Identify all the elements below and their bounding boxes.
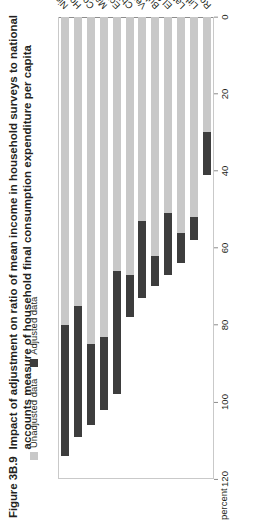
axis-tick-label: 0	[219, 14, 231, 19]
bar-row	[190, 17, 198, 478]
legend-label-unadjusted: Unadjusted data	[28, 379, 39, 448]
bar-segment-adjusted	[164, 213, 172, 275]
axis-tick-mark	[214, 402, 218, 403]
axis-tick-mark	[214, 171, 218, 172]
bar-segment-adjusted	[151, 256, 159, 287]
bar-segment-adjusted	[87, 344, 95, 425]
bar-segment-adjusted	[113, 271, 121, 394]
axis-tick-mark	[214, 94, 218, 95]
bar-row	[61, 17, 69, 478]
plot-area	[58, 17, 214, 479]
axis-tick: 80	[214, 320, 231, 331]
axis-tick: 120	[214, 471, 231, 487]
bar-row	[164, 17, 172, 478]
bar-segment-adjusted	[126, 275, 134, 317]
axis-unit-label: percent	[218, 488, 230, 520]
axis-tick-label: 40	[219, 166, 231, 177]
legend-item-adjusted: Adjusted data	[28, 297, 39, 367]
axis-tick: 40	[214, 166, 231, 177]
legend-swatch-unadjusted-icon	[30, 452, 38, 460]
legend-swatch-adjusted-icon	[30, 359, 38, 367]
bar-row	[100, 17, 108, 478]
axis-tick-mark	[214, 479, 218, 480]
axis-tick: 100	[214, 394, 231, 410]
chart-legend: Unadjusted data Adjusted data	[28, 297, 39, 460]
axis-tick-label: 20	[219, 89, 231, 100]
axis-tick-label: 100	[219, 394, 231, 410]
axis-tick: 60	[214, 243, 231, 254]
axis-tick-mark	[214, 325, 218, 326]
bar-row	[177, 17, 185, 478]
bar-segment-unadjusted	[151, 17, 159, 287]
bar-row	[151, 17, 159, 478]
bar-row	[126, 17, 134, 478]
figure-inner: Figure 3B.9 Impact of adjustment on rati…	[0, 0, 262, 526]
axis-tick-label: 60	[219, 243, 231, 254]
value-axis-ticks: 120100806040200	[214, 17, 236, 479]
bar-segment-unadjusted	[177, 17, 185, 263]
figure-rotated-container: Figure 3B.9 Impact of adjustment on rati…	[0, 0, 262, 526]
bar-segment-adjusted	[203, 133, 211, 175]
axis-tick: 0	[214, 14, 231, 19]
figure-number: Figure 3B.9	[6, 456, 20, 518]
bar-row	[203, 17, 211, 478]
legend-label-adjusted: Adjusted data	[28, 297, 39, 355]
bar-segment-adjusted	[100, 337, 108, 410]
bar-rows	[59, 17, 213, 478]
axis-tick-label: 80	[219, 320, 231, 331]
bar-segment-unadjusted	[190, 17, 198, 240]
bar-segment-adjusted	[61, 325, 69, 456]
axis-tick-mark	[214, 17, 218, 18]
axis-tick-mark	[214, 248, 218, 249]
plot-wrap	[58, 17, 214, 479]
legend-item-unadjusted: Unadjusted data	[28, 379, 39, 460]
bar-segment-unadjusted	[126, 17, 134, 317]
category-label: Nicaragua	[32, 0, 70, 11]
bar-segment-adjusted	[138, 221, 146, 298]
bar-row	[113, 17, 121, 478]
bar-segment-adjusted	[190, 217, 198, 240]
axis-tick-label: 120	[219, 471, 231, 487]
bar-row	[87, 17, 95, 478]
bar-segment-adjusted	[74, 306, 82, 437]
bar-segment-adjusted	[177, 233, 185, 264]
bar-row	[74, 17, 82, 478]
bar-row	[138, 17, 146, 478]
axis-tick: 20	[214, 89, 231, 100]
